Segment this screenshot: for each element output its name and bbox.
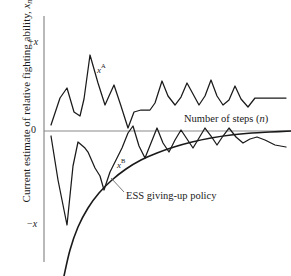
series-label-x-a: xA — [97, 62, 106, 75]
y-tick-plus-x-var: x — [34, 36, 38, 47]
figure-container: Current estimate of relative fighting ab… — [0, 0, 291, 276]
y-axis-title: Current estimate of relative fighting ab… — [20, 0, 34, 221]
series-label-x-b-sup: B — [121, 157, 125, 164]
y-tick-zero-text: 0 — [31, 124, 36, 135]
y-tick-minus-x-var: x — [33, 218, 37, 229]
y-axis-title-subscript: n — [25, 0, 34, 4]
series-label-x-a-sup: A — [101, 62, 106, 69]
ess-policy-label: ESS giving-up policy — [126, 190, 216, 201]
y-tick-label-zero: 0 — [31, 124, 36, 135]
x-axis-title-close: ) — [265, 113, 269, 124]
y-axis-title-var: x — [20, 4, 32, 9]
x-axis-title: Number of steps (n) — [184, 113, 268, 124]
series-label-x-b: xB — [117, 157, 125, 170]
chart-plot-area — [0, 0, 291, 276]
y-tick-label-plus-x: +x — [28, 36, 38, 47]
x-axis-title-text: Number of steps ( — [184, 113, 260, 124]
y-tick-label-minus-x: −x — [27, 218, 37, 229]
